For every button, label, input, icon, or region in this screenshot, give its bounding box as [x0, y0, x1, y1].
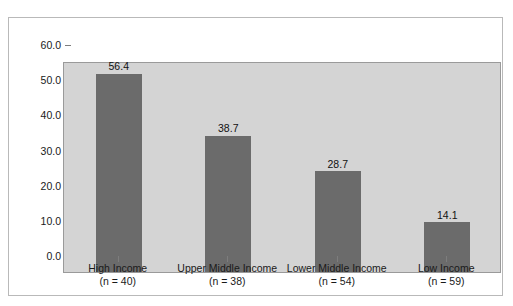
x-axis-tick-label: High Income(n = 40) — [63, 262, 173, 288]
bar[interactable] — [205, 136, 251, 272]
bar-value-label: 14.1 — [406, 210, 488, 221]
y-axis-tick-label: 30.0 — [17, 146, 61, 157]
x-axis-category-name: Low Income — [392, 262, 502, 275]
bar-group[interactable]: 28.7 — [315, 61, 361, 272]
chart-title-strip — [0, 0, 513, 10]
x-axis-tick-label: Low Income(n = 59) — [392, 262, 502, 288]
x-axis-category-name: High Income — [63, 262, 173, 275]
y-axis-tick-label: 0.0 — [17, 251, 61, 262]
bar-value-label: 56.4 — [78, 61, 160, 72]
x-axis-category-name: Lower Middle Income — [282, 262, 392, 275]
bar-group[interactable]: 14.1 — [424, 61, 470, 272]
figure-frame: 60.050.040.030.020.010.00.0 56.438.728.7… — [8, 17, 503, 296]
bar[interactable] — [96, 74, 142, 272]
bar-value-label: 28.7 — [297, 159, 379, 170]
y-axis-tick-label: 60.0 — [17, 40, 61, 51]
x-axis-sample-size: (n = 59) — [392, 275, 502, 288]
bar-group[interactable]: 56.4 — [96, 61, 142, 272]
y-axis: 60.050.040.030.020.010.00.0 — [17, 37, 61, 264]
y-axis-tick-mark — [65, 45, 71, 46]
y-axis-tick-label: 40.0 — [17, 110, 61, 121]
x-axis-category-name: Upper Middle Income — [173, 262, 283, 275]
x-axis-sample-size: (n = 38) — [173, 275, 283, 288]
bar-value-label: 38.7 — [187, 123, 269, 134]
bar-group[interactable]: 38.7 — [205, 61, 251, 272]
plot-area: 56.438.728.714.1 — [63, 62, 501, 273]
y-axis-tick-label: 50.0 — [17, 75, 61, 86]
bar[interactable] — [315, 171, 361, 272]
x-axis-sample-size: (n = 40) — [63, 275, 173, 288]
x-axis-tick-label: Lower Middle Income(n = 54) — [282, 262, 392, 288]
x-axis-sample-size: (n = 54) — [282, 275, 392, 288]
y-axis-tick-label: 20.0 — [17, 181, 61, 192]
x-axis: High Income(n = 40)Upper Middle Income(n… — [63, 262, 501, 296]
y-axis-tick-label: 10.0 — [17, 216, 61, 227]
x-axis-tick-label: Upper Middle Income(n = 38) — [173, 262, 283, 288]
